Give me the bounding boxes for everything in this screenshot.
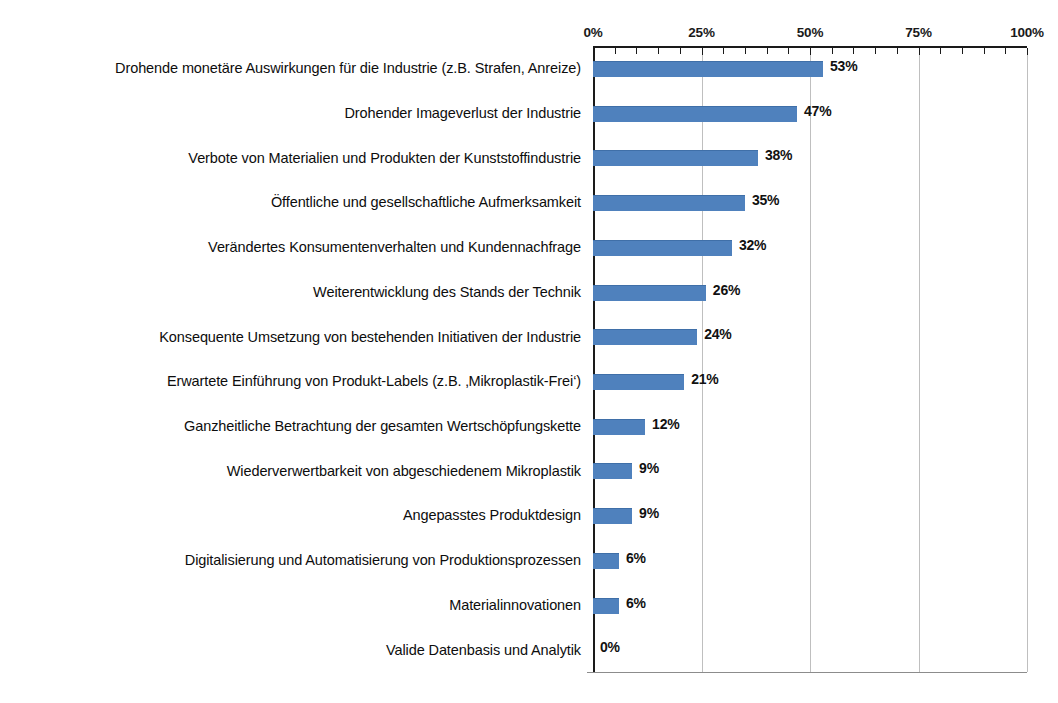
x-axis-tick-labels: 0%25%50%75%100%	[593, 25, 1027, 45]
gridline	[1027, 48, 1028, 672]
bar-row: 0%	[593, 627, 1027, 672]
bar-row: 12%	[593, 404, 1027, 449]
bar-row: 35%	[593, 180, 1027, 225]
bar	[593, 195, 745, 211]
bar-row: 38%	[593, 135, 1027, 180]
bar	[593, 463, 632, 479]
plot-bottom-border	[587, 672, 1027, 673]
bar-value-label: 32%	[739, 237, 766, 253]
bar	[593, 374, 684, 390]
bar-value-label: 24%	[704, 326, 731, 342]
x-axis-tick-label: 0%	[583, 25, 602, 40]
bar-value-label: 0%	[600, 639, 620, 655]
bar-value-label: 9%	[639, 460, 659, 476]
bar	[593, 150, 758, 166]
bar-row: 32%	[593, 225, 1027, 270]
category-label: Wiederverwertbarkeit von abgeschiedenem …	[227, 448, 581, 493]
bar	[593, 508, 632, 524]
bar	[593, 553, 619, 569]
bar	[593, 329, 697, 345]
bar-value-label: 6%	[626, 550, 646, 566]
bar-value-label: 47%	[804, 103, 831, 119]
bar	[593, 419, 645, 435]
category-label: Weiterentwicklung des Stands der Technik	[313, 270, 581, 315]
bar-value-label: 21%	[691, 371, 718, 387]
category-label: Ganzheitliche Betrachtung der gesamten W…	[184, 404, 581, 449]
category-label: Öffentliche und gesellschaftliche Aufmer…	[271, 180, 581, 225]
bar	[593, 240, 732, 256]
category-axis-labels: Drohende monetäre Auswirkungen für die I…	[0, 46, 587, 672]
category-label: Valide Datenbasis und Analytik	[386, 627, 581, 672]
bar-row: 9%	[593, 493, 1027, 538]
bar-row: 47%	[593, 91, 1027, 136]
bar-row: 53%	[593, 46, 1027, 91]
bar	[593, 285, 706, 301]
bar	[593, 598, 619, 614]
bar	[593, 106, 797, 122]
x-axis-tick-label: 25%	[688, 25, 714, 40]
bar-row: 9%	[593, 448, 1027, 493]
category-label: Drohender Imageverlust der Industrie	[344, 91, 581, 136]
category-label: Konsequente Umsetzung von bestehenden In…	[159, 314, 581, 359]
category-label: Drohende monetäre Auswirkungen für die I…	[115, 46, 581, 91]
bar-value-label: 6%	[626, 595, 646, 611]
bar	[593, 61, 823, 77]
x-axis-tick-label: 100%	[1010, 25, 1044, 40]
bar-value-label: 53%	[830, 58, 857, 74]
bar-row: 6%	[593, 583, 1027, 628]
category-label: Erwartete Einführung von Produkt-Labels …	[167, 359, 581, 404]
bar-value-label: 26%	[713, 282, 740, 298]
bar-row: 21%	[593, 359, 1027, 404]
category-label: Verändertes Konsumentenverhalten und Kun…	[208, 225, 581, 270]
bar-row: 6%	[593, 538, 1027, 583]
category-label: Materialinnovationen	[449, 583, 581, 628]
x-axis-major-tick	[1027, 48, 1028, 55]
bar-row: 24%	[593, 314, 1027, 359]
category-label: Verbote von Materialien und Produkten de…	[188, 135, 581, 180]
bar-value-label: 38%	[765, 147, 792, 163]
x-axis-tick-label: 50%	[797, 25, 823, 40]
x-axis-tick-label: 75%	[905, 25, 931, 40]
bar-value-label: 35%	[752, 192, 779, 208]
category-label: Digitalisierung und Automatisierung von …	[185, 538, 581, 583]
bar-chart: 0%25%50%75%100% Drohende monetäre Auswir…	[0, 0, 1058, 703]
bar-row: 26%	[593, 270, 1027, 315]
bar-value-label: 9%	[639, 505, 659, 521]
category-label: Angepasstes Produktdesign	[403, 493, 581, 538]
bar-value-label: 12%	[652, 416, 679, 432]
plot-area: 53%47%38%35%32%26%24%21%12%9%9%6%6%0%	[593, 46, 1027, 672]
